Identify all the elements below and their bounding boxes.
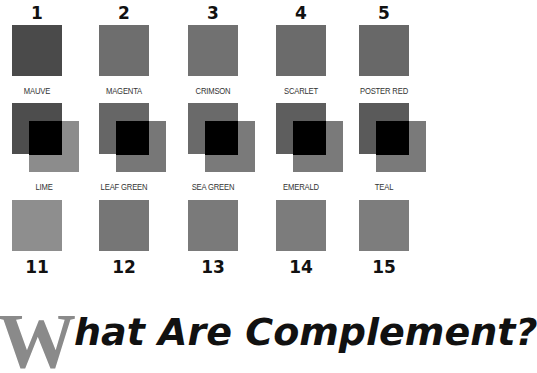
swatch-label-teal: TEAL <box>346 181 423 193</box>
swatch-12 <box>99 200 149 251</box>
overlap-region <box>376 121 409 155</box>
swatch-number-1: 1 <box>7 3 67 23</box>
swatch-magenta <box>99 25 149 76</box>
swatch-number-11: 11 <box>7 257 67 277</box>
swatch-crimson <box>188 25 238 76</box>
swatch-14 <box>276 200 326 251</box>
swatch-number-15: 15 <box>354 257 414 277</box>
swatch-label-poster-red: POSTER RED <box>346 85 423 97</box>
swatch-poster-red <box>359 25 409 76</box>
swatch-label-sea-green: SEA GREEN <box>175 181 252 193</box>
heading-drop-cap: W <box>0 302 66 373</box>
swatch-label-lime: LIME <box>6 181 83 193</box>
swatch-label-emerald: EMERALD <box>263 181 340 193</box>
overlap-region <box>29 121 62 155</box>
swatch-number-13: 13 <box>183 257 243 277</box>
swatch-label-mauve: MAUVE <box>0 85 75 97</box>
swatch-number-3: 3 <box>183 3 243 23</box>
swatch-label-crimson: CRIMSON <box>175 85 252 97</box>
swatch-13 <box>188 200 238 251</box>
swatch-scarlet <box>276 25 326 76</box>
swatch-number-5: 5 <box>354 3 414 23</box>
overlap-region <box>116 121 149 155</box>
swatch-number-4: 4 <box>271 3 331 23</box>
swatch-15 <box>359 200 409 251</box>
swatch-number-14: 14 <box>271 257 331 277</box>
swatch-number-2: 2 <box>94 3 154 23</box>
overlap-region <box>205 121 238 155</box>
heading-text: hat Are Complement? <box>74 312 537 352</box>
swatch-label-leaf-green: LEAF GREEN <box>86 181 163 193</box>
swatch-label-magenta: MAGENTA <box>86 85 163 97</box>
swatch-11 <box>12 200 62 251</box>
overlap-region <box>293 121 326 155</box>
swatch-number-12: 12 <box>94 257 154 277</box>
swatch-label-scarlet: SCARLET <box>263 85 340 97</box>
swatch-mauve <box>12 25 62 76</box>
